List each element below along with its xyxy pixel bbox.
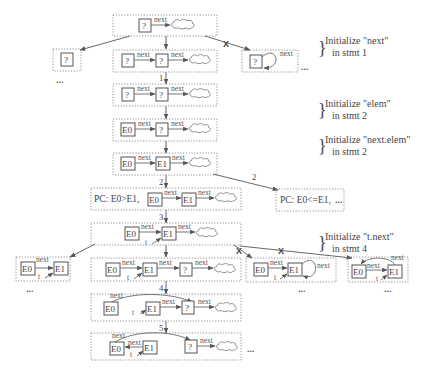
svg-text:next: next bbox=[122, 258, 136, 267]
svg-text:next: next bbox=[138, 119, 152, 128]
svg-text:in stmt 1: in stmt 1 bbox=[332, 47, 367, 58]
svg-text:E0: E0 bbox=[105, 304, 115, 314]
svg-text:E1: E1 bbox=[389, 267, 399, 277]
svg-text:next: next bbox=[200, 336, 214, 345]
state-s2: ? next ? next bbox=[113, 84, 217, 106]
cloud-icon bbox=[171, 19, 194, 29]
state-s7-back: E0 next t E1 next ... bbox=[348, 253, 408, 294]
svg-text:...: ... bbox=[56, 75, 64, 85]
svg-text:1: 1 bbox=[159, 73, 163, 83]
svg-text:?: ? bbox=[185, 303, 189, 313]
svg-text:next: next bbox=[154, 15, 168, 24]
svg-text:next: next bbox=[270, 258, 284, 267]
svg-text:E1: E1 bbox=[144, 265, 154, 275]
svg-text:?: ? bbox=[142, 21, 146, 31]
svg-text:E1: E1 bbox=[55, 264, 65, 274]
svg-text:next: next bbox=[198, 188, 212, 197]
state-s1-self: ? next ... bbox=[242, 49, 309, 72]
svg-text:next: next bbox=[317, 261, 331, 270]
svg-text:next: next bbox=[110, 291, 124, 300]
svg-text:next: next bbox=[164, 188, 178, 197]
state-s5-le: PC: E0<=E1, ... bbox=[276, 189, 344, 211]
svg-text:next: next bbox=[137, 84, 151, 93]
svg-text:in stmt 2: in stmt 2 bbox=[332, 110, 367, 121]
svg-text:next: next bbox=[198, 297, 212, 306]
svg-text:next: next bbox=[128, 338, 142, 347]
svg-text:t: t bbox=[127, 273, 130, 282]
svg-text:next: next bbox=[195, 258, 209, 267]
svg-text:next: next bbox=[171, 84, 185, 93]
svg-text:E0: E0 bbox=[122, 159, 132, 169]
svg-text:?: ? bbox=[183, 265, 187, 275]
svg-text:next: next bbox=[141, 222, 155, 231]
svg-text:next: next bbox=[159, 258, 173, 267]
svg-text:...: ... bbox=[247, 344, 255, 354]
cloud-icon bbox=[215, 193, 236, 202]
svg-text:next: next bbox=[391, 253, 405, 262]
cloud-icon bbox=[214, 264, 235, 273]
svg-text:...: ... bbox=[301, 62, 309, 72]
path-condition-le: PC: E0<=E1, bbox=[280, 195, 331, 205]
svg-text:5: 5 bbox=[159, 323, 163, 333]
state-s4: E0 next E1 next bbox=[113, 153, 217, 175]
svg-text:next: next bbox=[367, 261, 381, 270]
svg-text:Initialize "next": Initialize "next" bbox=[325, 35, 388, 46]
svg-text:E0: E0 bbox=[149, 195, 159, 205]
svg-text:E0: E0 bbox=[353, 267, 363, 277]
svg-text:...: ... bbox=[335, 195, 343, 205]
state-s9: E0 next next t E1 ? next ... bbox=[91, 331, 255, 360]
svg-text:Initialize "t.next": Initialize "t.next" bbox=[325, 231, 394, 242]
state-s6: E0 next t E1 next bbox=[91, 222, 241, 247]
svg-text:next: next bbox=[138, 153, 152, 162]
annotation-init-next-elem: } Initialize "next.elem" in stmt 2 bbox=[318, 134, 410, 157]
svg-text:E1: E1 bbox=[163, 229, 173, 239]
svg-text:E0: E0 bbox=[107, 265, 117, 275]
svg-text:t: t bbox=[132, 308, 135, 317]
svg-text:E1: E1 bbox=[147, 304, 157, 314]
svg-text:?: ? bbox=[125, 90, 129, 100]
path-condition-gt: PC: E0>E1, bbox=[94, 194, 139, 204]
state-s3: E0 next ? next bbox=[113, 119, 217, 141]
svg-text:next: next bbox=[137, 50, 151, 59]
svg-text:next: next bbox=[36, 255, 50, 264]
state-s8: E0 next t E1 next ? next bbox=[91, 291, 241, 321]
state-s7-null: E0 next t E1 ... bbox=[16, 255, 70, 294]
x-mark: X bbox=[278, 246, 284, 256]
svg-text:2: 2 bbox=[252, 172, 256, 182]
annotation-init-next: } Initialize "next" in stmt 1 bbox=[318, 35, 388, 58]
svg-text:2: 2 bbox=[159, 177, 163, 187]
state-s5-gt: PC: E0>E1, E0 next E1 next bbox=[91, 188, 241, 210]
svg-text:?: ? bbox=[253, 57, 257, 67]
svg-text:E0: E0 bbox=[122, 125, 132, 135]
cloud-icon bbox=[189, 124, 210, 133]
svg-text:3: 3 bbox=[159, 212, 163, 222]
svg-text:in stmt 4: in stmt 4 bbox=[332, 243, 367, 254]
annotation-init-t-next: } Initialize "t.next" in stmt 4 bbox=[318, 231, 394, 254]
state-s7-self: E0 next t E1 next ... bbox=[246, 258, 336, 294]
svg-text:next: next bbox=[112, 331, 126, 340]
svg-text:?: ? bbox=[159, 56, 163, 66]
state-space-diagram: ? next X ? ... ? next ? next ? next ... … bbox=[0, 0, 422, 377]
svg-text:next: next bbox=[178, 222, 192, 231]
cloud-icon bbox=[189, 89, 210, 98]
state-s1-new: ? next ? next bbox=[113, 50, 217, 72]
svg-text:in stmt 2: in stmt 2 bbox=[332, 146, 367, 157]
svg-text:...: ... bbox=[26, 284, 34, 294]
svg-text:4: 4 bbox=[159, 283, 164, 293]
cloud-icon bbox=[216, 342, 237, 351]
svg-text:?: ? bbox=[159, 125, 163, 135]
state-s0: ? next bbox=[113, 15, 217, 36]
svg-text:E0: E0 bbox=[111, 344, 121, 354]
svg-text:...: ... bbox=[384, 284, 392, 294]
cloud-icon bbox=[215, 303, 236, 312]
state-s7-new: E0 next t E1 next ? next bbox=[91, 258, 241, 282]
svg-text:E1: E1 bbox=[144, 343, 154, 353]
svg-text:?: ? bbox=[125, 56, 129, 66]
svg-text:t: t bbox=[130, 350, 133, 359]
svg-text:E0: E0 bbox=[22, 264, 32, 274]
cloud-icon bbox=[189, 55, 210, 64]
svg-text:t: t bbox=[274, 273, 277, 282]
x-mark: X bbox=[236, 246, 242, 256]
svg-text:next: next bbox=[171, 50, 185, 59]
svg-text:E0: E0 bbox=[126, 229, 136, 239]
